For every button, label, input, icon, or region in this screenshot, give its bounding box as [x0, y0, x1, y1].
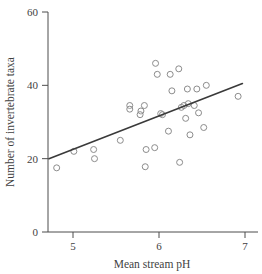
- y-tick-label-60: 60: [27, 6, 39, 18]
- data-point: [196, 110, 202, 116]
- data-point: [91, 147, 97, 153]
- data-point: [142, 164, 148, 170]
- scatter-plot-figure: 0204060 567 Mean stream pH Number of inv…: [0, 0, 262, 274]
- data-point: [92, 156, 98, 162]
- data-point: [176, 66, 182, 72]
- data-point: [177, 159, 183, 165]
- x-tick-label-6: 6: [156, 240, 162, 252]
- data-point: [165, 128, 171, 134]
- data-point: [183, 115, 189, 121]
- y-tick-label-0: 0: [33, 226, 39, 238]
- data-point: [169, 88, 175, 94]
- data-point: [235, 93, 241, 99]
- data-point: [54, 165, 60, 171]
- data-point: [141, 103, 147, 109]
- y-tick-label-40: 40: [27, 79, 39, 91]
- x-tick-label-5: 5: [70, 240, 76, 252]
- x-tick-label-7: 7: [242, 240, 248, 252]
- data-point: [154, 71, 160, 77]
- data-point: [117, 137, 123, 143]
- data-points: [54, 60, 241, 171]
- y-tick-label-20: 20: [27, 153, 39, 165]
- data-point: [201, 125, 207, 131]
- data-point: [167, 71, 173, 77]
- data-point: [184, 86, 190, 92]
- data-point: [152, 145, 158, 151]
- data-point: [194, 86, 200, 92]
- y-axis-title: Number of invertebrate taxa: [4, 57, 16, 187]
- data-point: [187, 132, 193, 138]
- data-point: [127, 106, 133, 112]
- y-axis-ticks: 0204060: [27, 6, 48, 238]
- data-point: [203, 82, 209, 88]
- data-point: [137, 112, 143, 118]
- x-axis-ticks: 567: [70, 232, 248, 252]
- data-point: [153, 60, 159, 66]
- data-point: [143, 147, 149, 153]
- x-axis-title: Mean stream pH: [114, 258, 191, 271]
- plot-canvas: 0204060 567 Mean stream pH Number of inv…: [0, 0, 262, 274]
